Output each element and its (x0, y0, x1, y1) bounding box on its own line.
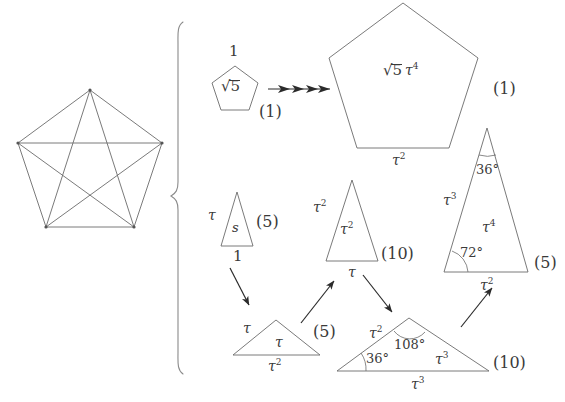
triangle-tau4-mult: (5) (534, 255, 557, 271)
triangle-flat-base-exponent: 2 (276, 357, 282, 367)
triangle-s-mult: (5) (256, 214, 279, 230)
triangle-obtuse-base-exponent: 3 (419, 375, 425, 385)
small-pentagon-mult: (1) (259, 104, 282, 120)
triangle-tau4-base-angle: 72° (460, 246, 483, 259)
big-pentagon-mult: (1) (493, 81, 516, 97)
triangle-tau2-left-tau: τ (313, 199, 321, 215)
triangle-obtuse-apex-angle: 108° (394, 338, 425, 351)
cycle-arrows (230, 268, 492, 327)
triangle-tau2-left-label: τ2 (313, 199, 326, 215)
triangle-obtuse-left-label: τ2 (369, 325, 382, 341)
triangle-tau2-inner-label: τ2 (340, 221, 353, 237)
big-pentagon-base-exponent: 2 (400, 151, 406, 161)
arrow-s-to-flat (230, 268, 249, 305)
triangle-tau2-inner-exponent: 2 (348, 220, 354, 230)
big-pentagon-base-label: τ2 (392, 152, 405, 168)
pentagram-diagonal-4 (18, 143, 134, 227)
big-pentagon-base-tau: τ (392, 152, 400, 168)
triangle-tau4-inner-exponent: 4 (490, 218, 496, 228)
triangle-flat-mult: (5) (313, 324, 336, 340)
pentagram-diagonal-3 (46, 143, 162, 227)
triangle-flat-base-tau: τ (268, 358, 276, 374)
triangle-tau4-left-label: τ3 (443, 192, 456, 208)
triangle-flat-left-label: τ (243, 320, 251, 336)
big-pentagon-tau: τ (405, 62, 413, 78)
multi-arrow (268, 85, 330, 93)
triangle-tau2-mult: (10) (381, 246, 414, 262)
triangle-tau2-base-label: τ (348, 264, 356, 280)
triangle-obtuse-base-label: τ3 (411, 376, 424, 392)
triangle-tau2-inner-tau: τ (340, 221, 348, 237)
triangle-tau4-base-tau: τ (480, 277, 488, 293)
triangle-tau4-apex-angle: 36° (476, 163, 499, 176)
triangle-tau4-inner-tau: τ (482, 219, 490, 235)
big-pentagon-tau-exponent: 4 (413, 61, 419, 71)
pentagram-group (16, 88, 163, 228)
angle-arc-36-apex (479, 155, 496, 156)
triangle-tau4-inner-label: τ4 (482, 219, 495, 235)
arrow-flat-to-tau2 (301, 281, 334, 323)
triangle-obtuse-inner-exponent: 3 (443, 350, 449, 360)
triangle-s-inner-label: s (232, 221, 239, 234)
triangle-flat-inner-label: τ (275, 334, 283, 350)
big-pentagon-inner-label: √5τ4 (382, 62, 419, 78)
triangle-tau4 (444, 128, 528, 272)
triangle-tau4-base-label: τ2 (480, 277, 493, 293)
small-pentagon-inner-label: √5 (220, 79, 240, 94)
arrow-obtuse-to-tau4 (461, 288, 492, 327)
triangle-flat-inner-tau: τ (275, 334, 283, 350)
triangle-tau4-left-tau: τ (443, 192, 451, 208)
triangle-tau4-left-exponent: 3 (451, 191, 457, 201)
triangle-obtuse-left-tau: τ (369, 325, 377, 341)
triangle-flat-left-tau: τ (243, 320, 251, 336)
small-pentagon-top-label: 1 (229, 44, 239, 59)
figure-canvas: 1 √5 (1) √5τ4 τ2 (1) τ s 1 (5) τ2 τ2 τ (… (0, 0, 565, 402)
pentagram-vertices (16, 88, 163, 228)
triangle-tau2-base-tau: τ (348, 264, 356, 280)
triangle-obtuse-left-exponent: 2 (377, 324, 383, 334)
large-left-brace (171, 22, 183, 374)
triangle-s-left-label: τ (208, 208, 216, 222)
arrow-tau2-to-obtuse (363, 275, 392, 312)
triangle-obtuse-mult: (10) (493, 355, 526, 371)
triangle-obtuse-inner-label: τ3 (435, 351, 448, 367)
pentagram-diagonal-2 (46, 90, 90, 227)
triangle-obtuse-base-tau: τ (411, 376, 419, 392)
triangle-s (221, 192, 253, 246)
triangle-s-base-label: 1 (233, 249, 243, 264)
triangle-tau2-left-exponent: 2 (321, 198, 327, 208)
triangle-obtuse-inner-tau: τ (435, 351, 443, 367)
triangle-obtuse-base-angle: 36° (366, 352, 389, 365)
triangle-tau4-base-exponent: 2 (488, 276, 494, 286)
triangle-flat-base-label: τ2 (268, 358, 281, 374)
pentagram-diagonal-1 (90, 90, 134, 227)
